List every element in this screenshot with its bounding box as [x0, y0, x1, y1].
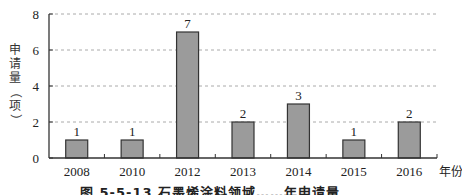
y-axis-label: 申请量（项）	[7, 43, 23, 127]
x-axis: 2008201020122013201420152016年份	[49, 154, 462, 179]
bar-chart: 02468 1172312 20082010201220132014201520…	[0, 0, 462, 195]
x-tick-label: 2015	[341, 164, 367, 179]
y-tick-label: 8	[33, 7, 40, 22]
bar-2014	[287, 104, 309, 158]
data-label: 1	[351, 124, 358, 139]
data-label: 3	[295, 88, 302, 103]
bar-2008	[66, 140, 88, 158]
x-tick-label: 2013	[230, 164, 256, 179]
x-axis-label: 年份	[439, 165, 462, 179]
y-axis: 02468	[33, 7, 54, 166]
y-axis-label-char: 项	[7, 99, 23, 113]
y-axis-label-char: 量	[7, 71, 23, 85]
y-axis-label-char: ）	[8, 112, 22, 128]
data-label: 1	[129, 124, 136, 139]
x-tick-label: 2012	[175, 164, 201, 179]
x-tick-label: 2010	[119, 164, 145, 179]
y-axis-label-char: 请	[7, 57, 23, 71]
bar-2015	[343, 140, 365, 158]
y-axis-label-char: （	[8, 84, 22, 100]
x-tick-label: 2008	[64, 164, 90, 179]
y-tick-label: 2	[33, 115, 40, 130]
bar-2012	[177, 32, 199, 158]
data-label: 7	[184, 16, 191, 31]
y-tick-label: 4	[33, 79, 40, 94]
x-tick-label: 2014	[285, 164, 312, 179]
bar-2010	[121, 140, 143, 158]
y-tick-label: 0	[33, 151, 40, 166]
bar-2016	[398, 122, 420, 158]
x-tick-label: 2016	[396, 164, 423, 179]
bar-2013	[232, 122, 254, 158]
bars: 1172312	[66, 16, 421, 158]
y-tick-label: 6	[33, 43, 40, 58]
data-label: 2	[406, 106, 413, 121]
data-label: 1	[73, 124, 80, 139]
figure-caption: 图 5-5-13 石墨烯涂料领域……年申请量	[80, 182, 340, 195]
y-axis-label-char: 申	[7, 43, 23, 57]
data-label: 2	[240, 106, 247, 121]
